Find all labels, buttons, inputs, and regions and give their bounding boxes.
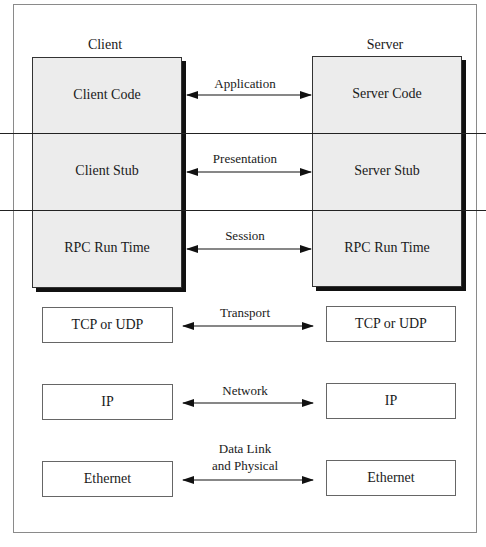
double-arrow-icons — [0, 0, 486, 547]
